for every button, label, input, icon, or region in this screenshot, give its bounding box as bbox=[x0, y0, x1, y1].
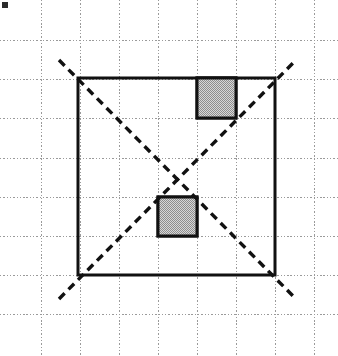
shaded-unit-square-outline-1 bbox=[158, 197, 197, 236]
shaded-unit-square-outline-0 bbox=[197, 78, 236, 118]
figure-background bbox=[0, 0, 338, 356]
corner-marker-blob bbox=[2, 2, 8, 8]
geometry-figure-root bbox=[0, 0, 338, 356]
geometry-figure-svg bbox=[0, 0, 338, 356]
